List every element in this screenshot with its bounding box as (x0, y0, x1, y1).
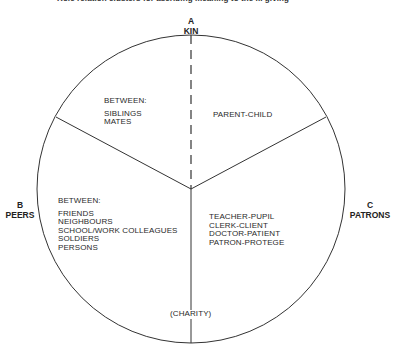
node-b-peers: B PEERS (0, 200, 40, 220)
sector-patrons: TEACHER-PUPIL CLERK-CLIENT DOCTOR-PATIEN… (209, 213, 284, 247)
role-relation-circle-diagram (0, 0, 395, 347)
divider-left (56, 117, 191, 189)
node-b-name: PEERS (0, 210, 40, 220)
sector-kin-peers: BETWEEN: SIBLINGS MATES (104, 97, 147, 127)
divider-right (191, 117, 326, 189)
node-c-name: PATRONS (345, 210, 395, 220)
charity-label: (CHARITY) (169, 310, 212, 319)
sector-peers-header: BETWEEN: (58, 197, 178, 206)
node-c-patrons: C PATRONS (345, 200, 395, 220)
sector-peers-item: PERSONS (58, 244, 178, 253)
sector-kin-patrons-item: PARENT-CHILD (213, 111, 272, 120)
sector-patrons-item: PATRON-PROTEGE (209, 239, 284, 248)
node-c-letter: C (345, 200, 395, 210)
sector-kin-peers-header: BETWEEN: (104, 97, 147, 106)
sector-kin-peers-item: MATES (104, 118, 147, 127)
sector-peers: BETWEEN: FRIENDS NEIGHBOURS SCHOOL/WORK … (58, 197, 178, 253)
node-a-name: KIN (175, 26, 207, 36)
node-a-letter: A (175, 16, 207, 26)
sector-kin-patrons: PARENT-CHILD (213, 111, 272, 120)
node-a-kin: A KIN (175, 16, 207, 36)
node-b-letter: B (0, 200, 40, 210)
